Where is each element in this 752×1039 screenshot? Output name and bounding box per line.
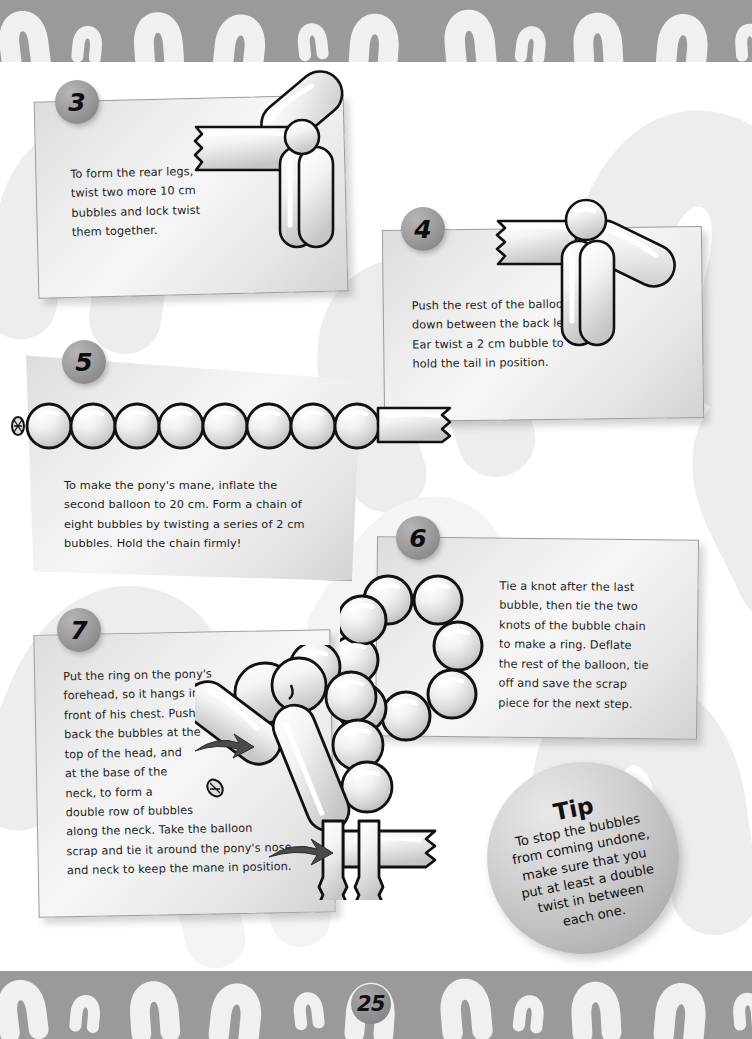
step-badge-4-number: 4 [414, 217, 431, 242]
step-badge-5-number: 5 [75, 350, 92, 375]
step-6-text: Tie a knot after the last bubble, then t… [498, 577, 649, 715]
step-5-text: To make the pony's mane, inflate the sec… [64, 476, 305, 554]
page-number-text: 25 [357, 994, 385, 1015]
step-badge-3: 3 [55, 80, 99, 124]
step-4-text: Push the rest of the balloon down betwee… [412, 295, 581, 375]
step-badge-6-number: 6 [409, 526, 426, 551]
instruction-page: 25 To form the rear legs, twist two more… [0, 0, 752, 1039]
step-badge-3-number: 3 [68, 90, 85, 115]
step-badge-4: 4 [401, 207, 445, 251]
step-badge-5: 5 [62, 340, 106, 384]
top-border-band [0, 0, 752, 62]
step-badge-6: 6 [396, 516, 440, 560]
step-panel-3: To form the rear legs, twist two more 10… [34, 94, 349, 299]
step-3-text: To form the rear legs, twist two more 10… [70, 162, 201, 243]
page-number-badge: 25 [351, 984, 391, 1024]
step-panel-7: Put the ring on the pony's forehead, so … [33, 629, 335, 918]
step-panel-4: Push the rest of the balloon down betwee… [382, 226, 704, 422]
tip-body-text: To stop the bubbles from coming undone, … [491, 805, 679, 940]
step-panel-6: Tie a knot after the last bubble, then t… [375, 536, 699, 739]
tip-content: Tip To stop the bubbles from coming undo… [487, 762, 679, 954]
step-7-text: Put the ring on the pony's forehead, so … [63, 663, 292, 881]
tip-bubble: Tip To stop the bubbles from coming undo… [487, 762, 679, 954]
step-badge-7: 7 [57, 608, 101, 652]
step-badge-7-number: 7 [70, 618, 87, 643]
